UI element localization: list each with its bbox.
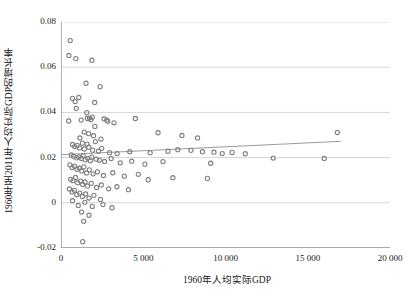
data-point	[102, 159, 106, 163]
data-point	[84, 192, 88, 196]
axis-lines	[61, 22, 390, 248]
data-point	[136, 172, 140, 176]
data-point	[80, 169, 84, 173]
data-point	[161, 160, 165, 164]
axis-ticks	[61, 22, 390, 248]
data-point	[99, 137, 103, 141]
data-point	[77, 146, 81, 150]
data-point	[90, 148, 94, 152]
data-point	[243, 152, 247, 156]
data-point	[79, 118, 83, 122]
scatter-chart-figure: 1960年至2011年人均实际GDP的增长率 -0.0200.020.040.0…	[0, 0, 410, 297]
data-point	[230, 150, 234, 154]
data-point	[143, 162, 147, 166]
x-tick-label: 15 000	[295, 254, 320, 263]
gridlines	[61, 22, 390, 248]
data-point	[73, 99, 77, 103]
data-point	[95, 170, 99, 174]
data-point	[101, 173, 105, 177]
data-point	[195, 136, 199, 140]
y-tick-label: 0	[16, 198, 56, 207]
data-point	[74, 106, 78, 110]
data-point	[91, 134, 95, 138]
data-points	[67, 38, 340, 243]
x-axis-title: 1960年人均实际GDP	[60, 272, 394, 286]
data-point	[68, 38, 72, 42]
y-tick-label: 0.02	[16, 153, 56, 162]
data-point	[180, 133, 184, 137]
data-point	[100, 146, 104, 150]
x-tick-label: 5 000	[133, 254, 153, 263]
data-point	[118, 161, 122, 165]
data-point	[107, 187, 111, 191]
data-point	[84, 81, 88, 85]
y-tick-label: 0.06	[16, 62, 56, 71]
plot-svg	[61, 22, 390, 248]
data-point	[87, 132, 91, 136]
data-point	[98, 85, 102, 89]
x-tick-label: 10 000	[213, 254, 238, 263]
data-point	[220, 151, 224, 155]
data-point	[112, 121, 116, 125]
data-point	[82, 130, 86, 134]
data-point	[87, 213, 91, 217]
data-point	[67, 119, 71, 123]
data-point	[91, 172, 95, 176]
data-point	[87, 196, 91, 200]
x-tick-label: 0	[59, 254, 64, 263]
data-point	[99, 183, 103, 187]
data-point	[148, 151, 152, 155]
data-point	[89, 181, 93, 185]
y-tick-label: -0.02	[16, 243, 56, 252]
data-point	[109, 156, 113, 160]
data-point	[335, 130, 339, 134]
data-point	[156, 131, 160, 135]
data-point	[111, 171, 115, 175]
data-point	[94, 185, 98, 189]
data-point	[81, 240, 85, 244]
data-point	[90, 204, 94, 208]
plot-area	[61, 22, 390, 248]
y-tick-label: 0.04	[16, 107, 56, 116]
data-point	[78, 136, 82, 140]
x-tick-label: 20 000	[378, 254, 403, 263]
data-point	[70, 199, 74, 203]
data-point	[74, 57, 78, 61]
data-point	[115, 185, 119, 189]
y-axis-tick-labels: -0.0200.020.040.060.08	[12, 0, 56, 297]
data-point	[76, 203, 80, 207]
data-point	[126, 188, 130, 192]
data-point	[82, 165, 86, 169]
data-point	[79, 210, 83, 214]
data-point	[322, 156, 326, 160]
data-point	[212, 150, 216, 154]
data-point	[106, 119, 110, 123]
data-point	[130, 159, 134, 163]
data-point	[122, 174, 126, 178]
y-tick-label: 0.08	[16, 17, 56, 26]
data-point	[92, 193, 96, 197]
data-point	[82, 147, 86, 151]
data-point	[205, 176, 209, 180]
data-point	[93, 124, 97, 128]
data-point	[82, 219, 86, 223]
data-point	[176, 148, 180, 152]
data-point	[200, 150, 204, 154]
x-axis-tick-labels: 05 00010 00015 00020 000	[0, 254, 410, 268]
data-point	[67, 53, 71, 57]
data-point	[98, 197, 102, 201]
data-point	[93, 139, 97, 143]
data-point	[171, 176, 175, 180]
data-point	[146, 178, 150, 182]
data-point	[73, 175, 77, 179]
data-point	[93, 100, 97, 104]
data-point	[133, 116, 137, 120]
data-point	[77, 95, 81, 99]
data-point	[80, 141, 84, 145]
data-point	[209, 161, 213, 165]
data-point	[90, 58, 94, 62]
data-point	[87, 168, 91, 172]
data-point	[110, 206, 114, 210]
